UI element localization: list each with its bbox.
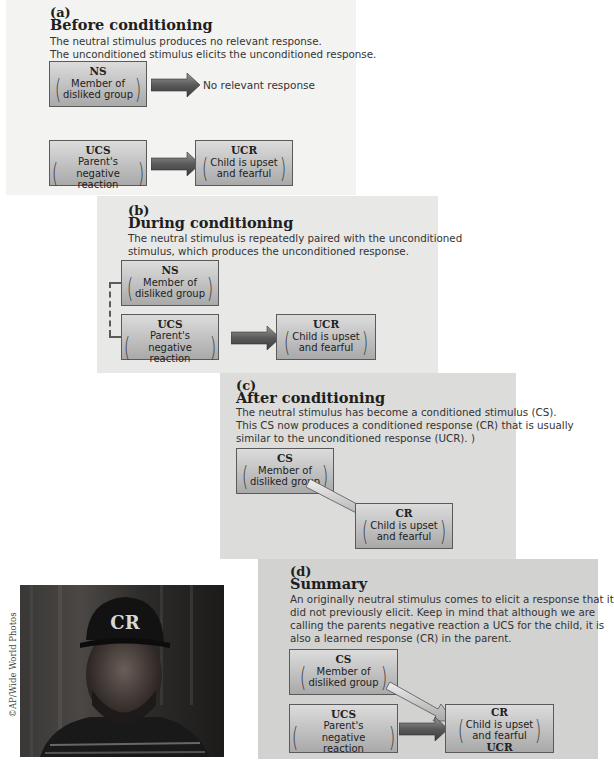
ucs-box: UCS (Parent's negativereaction) (121, 314, 219, 360)
photo-credit: ©AP/Wide World Photos (8, 600, 18, 730)
panel-description: The neutral stimulus is repeatedly paire… (128, 232, 462, 258)
desc-line: similar to the unconditioned response (U… (236, 432, 574, 445)
box-label: UCR (277, 318, 375, 330)
panel-during-conditioning: (b) During conditioning The neutral stim… (97, 196, 438, 373)
arrow-right-icon (151, 73, 201, 97)
box-text: and fearful (370, 531, 438, 543)
panel-title: During conditioning (128, 215, 293, 230)
box-text: reaction (60, 179, 136, 191)
pairing-connector (109, 282, 111, 336)
panel-title: After conditioning (236, 390, 385, 405)
box-text: Parent's negative (60, 156, 136, 179)
box-label: UCR (196, 144, 292, 156)
box-text: Parent's negative (132, 330, 208, 353)
arrow-right-icon (231, 326, 281, 350)
box-text: disliked group (135, 288, 205, 300)
desc-line: The neutral stimulus has become a condit… (236, 406, 574, 419)
desc-line: An originally neutral stimulus comes to … (290, 593, 614, 606)
box-text: Member of (308, 666, 378, 678)
cr-box: CR (Child is upsetand fearful) (355, 503, 453, 549)
ucr-box: UCR (Child is upsetand fearful) (195, 140, 293, 186)
ns-box: NS (Member ofdisliked group) (49, 61, 147, 107)
box-label: NS (122, 264, 218, 276)
cr-ucr-box: CR (Child is upsetand fearful) UCR (445, 704, 554, 753)
desc-line: The neutral stimulus produces no relevan… (50, 35, 376, 48)
panel-before-conditioning: (a) Before conditioning The neutral stim… (6, 0, 356, 195)
box-label: CR (356, 507, 452, 519)
panel-after-conditioning: (c) After conditioning The neutral stimu… (220, 373, 516, 559)
box-label: CS (237, 452, 333, 464)
box-text: Child is upset (370, 520, 438, 532)
desc-line: stimulus, which produces the uncondition… (128, 245, 462, 258)
box-text: Child is upset (292, 331, 360, 343)
box-text: Child is upset (466, 719, 534, 731)
box-text: and fearful (292, 342, 360, 354)
panel-title: Summary (290, 576, 367, 591)
ns-box: NS (Member ofdisliked group) (121, 260, 219, 306)
arrow-right-icon (151, 152, 201, 176)
ucs-box: UCS (Parent's negativereaction) (49, 140, 147, 186)
box-label: UCS (122, 318, 218, 330)
box-text: Parent's negative (300, 720, 387, 743)
box-label: UCS (290, 708, 397, 720)
photo-man-in-cap: CR (20, 585, 224, 757)
no-response-label: No relevant response (203, 79, 315, 91)
cap-logo: CR (110, 612, 140, 633)
box-text: and fearful (210, 168, 278, 180)
box-text: reaction (132, 353, 208, 365)
panel-description: The neutral stimulus produces no relevan… (50, 35, 376, 61)
cs-box: CS (Member ofdisliked group) (289, 649, 398, 695)
box-text: reaction (300, 743, 387, 755)
panel-description: An originally neutral stimulus comes to … (290, 593, 614, 645)
ucr-box: UCR (Child is upsetand fearful) (276, 314, 376, 360)
box-text: disliked group (308, 677, 378, 689)
arrow-right-icon (399, 717, 449, 741)
ucs-box: UCS (Parent's negativereaction) (289, 704, 398, 753)
box-text: Member of (63, 78, 133, 90)
box-text: disliked group (63, 89, 133, 101)
box-text: Child is upset (210, 157, 278, 169)
desc-line: This CS now produces a conditioned respo… (236, 419, 574, 432)
desc-line: calling the parents negative reaction a … (290, 619, 614, 632)
pairing-connector (109, 336, 121, 338)
panel-title: Before conditioning (50, 17, 213, 32)
box-label: UCS (50, 144, 146, 156)
desc-line: The neutral stimulus is repeatedly paire… (128, 232, 462, 245)
desc-line: did not previously elicit. Keep in mind … (290, 606, 614, 619)
box-text: Member of (135, 277, 205, 289)
panel-description: The neutral stimulus has become a condit… (236, 406, 574, 445)
box-text: and fearful (466, 730, 534, 742)
panel-summary: (d) Summary An originally neutral stimul… (258, 559, 598, 759)
desc-line: also a learned response (CR) in the pare… (290, 632, 614, 645)
desc-line: The unconditioned stimulus elicits the u… (50, 48, 376, 61)
box-label: NS (50, 65, 146, 77)
